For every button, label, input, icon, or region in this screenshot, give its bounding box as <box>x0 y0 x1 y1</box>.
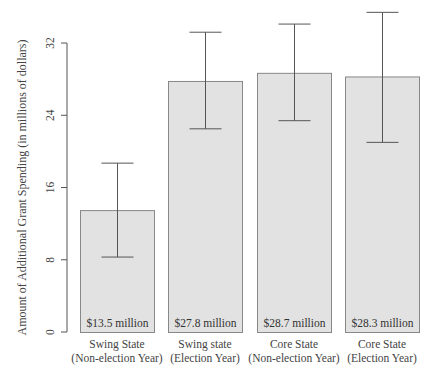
x-category-label: Core State(Election Year) <box>322 337 435 365</box>
bar-value-label: $13.5 million <box>87 317 149 329</box>
category-name: Core State <box>322 337 435 351</box>
category-subtitle: (Election Year) <box>322 351 435 365</box>
y-tick-label: 32 <box>44 37 56 49</box>
bar-value-label: $28.3 million <box>352 317 414 329</box>
y-tick-label: 8 <box>44 257 56 263</box>
bar-value-label: $27.8 million <box>175 317 237 329</box>
plot-area: 08162432$13.5 million$27.8 million$28.7 … <box>0 0 435 377</box>
bar-chart: 08162432$13.5 million$27.8 million$28.7 … <box>0 0 435 377</box>
y-tick-label: 0 <box>44 329 56 335</box>
y-axis-label: Amount of Additional Grant Spending (in … <box>15 38 30 338</box>
bar-value-label: $28.7 million <box>264 317 326 329</box>
y-tick-label: 24 <box>44 109 56 121</box>
y-tick-label: 16 <box>44 182 56 194</box>
